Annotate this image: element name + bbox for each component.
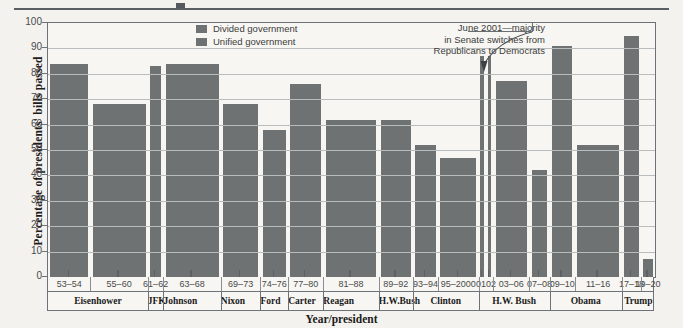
- president-cell-divider: [550, 292, 551, 310]
- year-label: 0102: [479, 277, 494, 291]
- year-cell-divider: [438, 277, 439, 291]
- gridline: [48, 201, 655, 202]
- x-axis-tick: [481, 270, 482, 277]
- plot-area: [47, 22, 656, 278]
- x-axis-tick: [538, 270, 539, 277]
- y-axis-tick-label: 70: [18, 92, 42, 103]
- bar: [577, 145, 620, 277]
- bar: [488, 56, 492, 277]
- president-label-row: EisenhowerJFKJohnsonNixonFordCarterReaga…: [47, 292, 654, 311]
- x-axis-tick: [646, 270, 647, 277]
- president-cell-divider: [148, 292, 149, 310]
- bar: [496, 81, 528, 277]
- president-cell-divider: [260, 292, 261, 310]
- x-axis-tick: [488, 270, 489, 277]
- legend-item-unified: Unified government: [196, 36, 298, 47]
- x-axis-tick: [596, 270, 597, 277]
- president-label: Clinton: [413, 292, 479, 310]
- president-cell-divider: [479, 292, 480, 310]
- year-label: 95–2000: [438, 277, 479, 291]
- year-cell-divider: [479, 277, 480, 291]
- legend-swatch-divided: [196, 25, 207, 33]
- year-cell-divider: [288, 277, 289, 291]
- y-axis-tick: [42, 124, 47, 125]
- year-cell-divider: [148, 277, 149, 291]
- year-cell-divider: [413, 277, 414, 291]
- gridline: [48, 252, 655, 253]
- bar: [326, 120, 377, 277]
- y-axis-tick-label: 100: [18, 16, 42, 27]
- bar: [480, 56, 484, 277]
- bar: [290, 84, 321, 277]
- y-axis-tick-label: 90: [18, 41, 42, 52]
- bar: [415, 145, 435, 277]
- y-axis-tick-label: 50: [18, 143, 42, 154]
- y-axis-tick-label: 80: [18, 67, 42, 78]
- legend-label-unified: Unified government: [213, 36, 295, 47]
- bar: [166, 64, 219, 277]
- president-cell-divider: [221, 292, 222, 310]
- year-label: 11–16: [575, 277, 622, 291]
- x-axis-tick: [394, 270, 395, 277]
- year-label: 77–80: [288, 277, 323, 291]
- x-axis-tick: [68, 270, 69, 277]
- year-label: 55–60: [90, 277, 147, 291]
- year-label: 89–92: [379, 277, 413, 291]
- year-cell-divider: [260, 277, 261, 291]
- y-axis-tick: [42, 174, 47, 175]
- x-axis-tick: [349, 270, 350, 277]
- y-axis-tick-label: 20: [18, 219, 42, 230]
- president-label: Reagan: [323, 292, 354, 310]
- x-axis-ticks: [47, 270, 654, 277]
- x-axis-tick: [560, 270, 561, 277]
- year-cell-divider: [221, 277, 222, 291]
- x-axis-tick: [117, 270, 118, 277]
- gridline: [48, 150, 655, 151]
- year-label: 19–20: [641, 277, 655, 291]
- president-label: H.W. Bush: [479, 292, 550, 310]
- x-axis-tick: [457, 270, 458, 277]
- president-cell-divider: [622, 292, 623, 310]
- x-axis-tick: [190, 270, 191, 277]
- year-label: 81–88: [323, 277, 378, 291]
- president-label: Eisenhower: [48, 292, 148, 310]
- year-cell-divider: [622, 277, 623, 291]
- year-label: 09–10: [550, 277, 575, 291]
- bar: [532, 170, 548, 277]
- year-cell-divider: [379, 277, 380, 291]
- bar: [624, 36, 639, 277]
- legend-swatch-unified: [196, 38, 207, 46]
- president-label: Carter: [288, 292, 315, 310]
- y-axis-tick: [42, 47, 47, 48]
- year-label-row: 53–5455–6061–6263–6869–7374–7677–8081–88…: [47, 277, 654, 292]
- x-axis-tick: [304, 270, 305, 277]
- bar: [150, 66, 161, 277]
- president-label: Ford: [260, 292, 280, 310]
- year-label: 07–08: [529, 277, 549, 291]
- year-cell-divider: [163, 277, 164, 291]
- president-cell-divider: [323, 292, 324, 310]
- x-axis-tick: [630, 270, 631, 277]
- president-cell-divider: [288, 292, 289, 310]
- president-label: Nixon: [221, 292, 245, 310]
- year-label: 93–94: [413, 277, 438, 291]
- gridline: [48, 99, 655, 100]
- year-cell-divider: [323, 277, 324, 291]
- year-cell-divider: [575, 277, 576, 291]
- gridline: [48, 226, 655, 227]
- gridline: [48, 74, 655, 75]
- y-axis-tick: [42, 251, 47, 252]
- y-axis-tick: [42, 225, 47, 226]
- y-axis-tick: [42, 200, 47, 201]
- y-axis-tick: [42, 98, 47, 99]
- bar: [263, 130, 286, 277]
- year-label: 74–76: [260, 277, 288, 291]
- president-cell-divider: [379, 292, 380, 310]
- president-label: Obama: [550, 292, 622, 310]
- gridline: [48, 175, 655, 176]
- x-axis-tick: [510, 270, 511, 277]
- header-rule: [14, 8, 669, 10]
- year-cell-divider: [529, 277, 530, 291]
- year-label: 03–06: [493, 277, 529, 291]
- x-axis-tick: [273, 270, 274, 277]
